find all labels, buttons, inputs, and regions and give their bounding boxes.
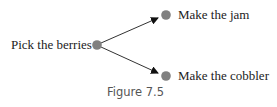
- node-cobbler: [161, 71, 171, 81]
- node-label-jam: Make the jam: [178, 8, 249, 22]
- node-jam: [161, 10, 171, 20]
- figure-caption: Figure 7.5: [107, 85, 164, 99]
- figure-7-5: Pick the berries Make the jam Make the c…: [0, 0, 277, 107]
- edge-pick-to-jam: [101, 18, 158, 43]
- edge-pick-to-cobbler: [101, 47, 158, 73]
- node-label-cobbler: Make the cobbler: [178, 69, 269, 83]
- node-label-pick: Pick the berries: [11, 38, 92, 52]
- node-pick: [92, 40, 102, 50]
